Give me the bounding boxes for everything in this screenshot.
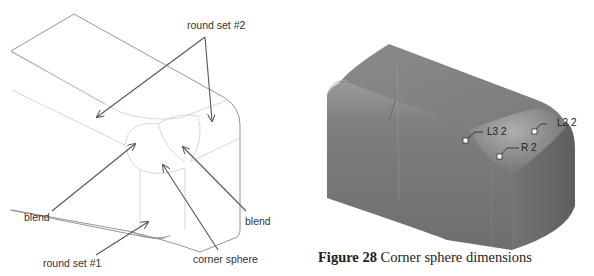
dimension-l3: L3 2 — [487, 127, 506, 137]
figure-caption: Figure 28 Corner sphere dimensions — [318, 249, 532, 266]
arrow-round-set-2-left — [97, 37, 205, 117]
dimension-r: R 2 — [521, 143, 537, 153]
label-round-set-1: round set #1 — [43, 258, 101, 269]
handle-l3 — [463, 138, 468, 143]
label-blend-left: blend — [24, 212, 50, 223]
shaded-model-drawing — [297, 0, 594, 276]
handle-l2 — [532, 129, 537, 134]
handle-r — [497, 154, 502, 159]
dimension-l2: L2 2 — [557, 118, 576, 128]
caption-text: Corner sphere dimensions — [377, 249, 532, 265]
figure-number: Figure 28 — [318, 249, 377, 265]
arrow-blend-right — [183, 147, 246, 211]
wireframe-drawing — [0, 0, 297, 276]
label-corner-sphere: corner sphere — [193, 254, 258, 265]
tangent-edges — [11, 52, 240, 230]
wireframe-figure: round set #2 blend blend corner sphere r… — [0, 0, 297, 276]
label-round-set-2: round set #2 — [187, 20, 245, 31]
shaded-model-figure: L3 2 R 2 L2 2 — [297, 0, 594, 276]
arrow-corner-sphere — [163, 165, 218, 250]
label-blend-right: blend — [245, 216, 271, 227]
arrow-blend-left — [52, 144, 135, 211]
